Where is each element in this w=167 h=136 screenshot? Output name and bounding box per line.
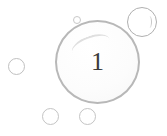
bubble-top-right-icon: [127, 7, 157, 37]
bubble-bottom-right-icon: [79, 108, 96, 125]
bubble-bottom-left-icon: [42, 108, 59, 125]
bubble-small-icon: [73, 16, 81, 24]
bubble-left-icon: [8, 58, 25, 75]
main-bubble: 1: [55, 20, 140, 104]
